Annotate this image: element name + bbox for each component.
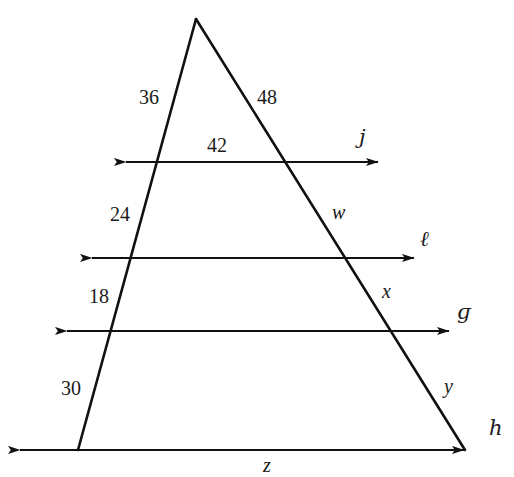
line-label-4: һ <box>489 418 503 439</box>
figure-canvas <box>0 0 514 477</box>
transversal-left-leg <box>78 19 196 450</box>
segment-label-right-third-x: x <box>382 281 391 301</box>
line-label-3: ɡ <box>457 302 470 323</box>
segment-label-left-top: 36 <box>139 87 159 107</box>
line-label-1: ј <box>359 127 366 148</box>
geometry-figure: 36 24 18 30 48 w x y 42 z ј ℓ ɡ һ <box>0 0 514 477</box>
segment-label-right-fourth-y: y <box>444 376 453 396</box>
segment-label-top-parallel-span: 42 <box>207 135 227 155</box>
segment-label-right-top: 48 <box>257 87 277 107</box>
segment-label-right-second-w: w <box>332 202 345 222</box>
line-label-2: ℓ <box>420 229 429 250</box>
segment-label-left-second: 24 <box>110 204 130 224</box>
segment-label-left-third: 18 <box>89 286 109 306</box>
segment-label-bottom-span-z: z <box>263 455 271 475</box>
segment-label-left-fourth: 30 <box>61 378 81 398</box>
